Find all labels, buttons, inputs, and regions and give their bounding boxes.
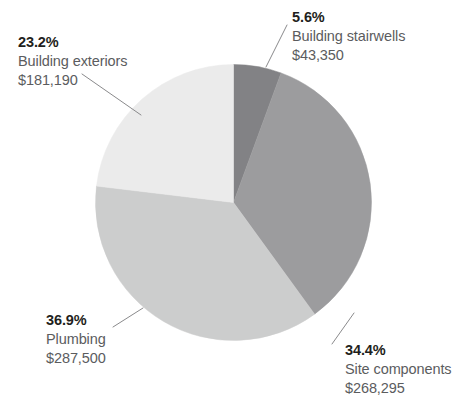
leader-line-plumbing [113,308,143,327]
pie-chart: 23.2% Building exteriors $181,190 5.6% B… [0,0,465,416]
pie-label-building-exteriors: 23.2% Building exteriors $181,190 [18,33,127,90]
leader-line-building-stairwells [266,25,287,67]
pie-label-plumbing: 36.9% Plumbing $287,500 [46,311,106,368]
pie-slices [95,64,371,340]
pie-label-percent: 34.4% [345,341,452,360]
pie-label-percent: 23.2% [18,33,127,52]
pie-label-percent: 5.6% [292,8,405,27]
pie-label-amount: $43,350 [292,46,405,65]
pie-label-site-components: 34.4% Site components $268,295 [345,341,452,398]
pie-label-category: Plumbing [46,330,106,349]
pie-label-building-stairwells: 5.6% Building stairwells $43,350 [292,8,405,65]
pie-label-amount: $268,295 [345,379,452,398]
leader-line-site-components [332,313,354,344]
pie-label-amount: $181,190 [18,71,127,90]
pie-label-amount: $287,500 [46,349,106,368]
pie-label-category: Building stairwells [292,27,405,46]
pie-label-category: Site components [345,360,452,379]
pie-label-percent: 36.9% [46,311,106,330]
pie-label-category: Building exteriors [18,52,127,71]
